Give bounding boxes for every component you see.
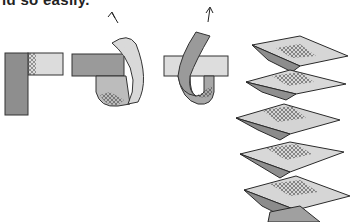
step-3-fold-second-strip-over — [164, 7, 228, 104]
folded-paper-spring — [236, 36, 350, 222]
step-2-fold-strip-over — [72, 12, 144, 106]
step-1-strips-at-right-angle — [5, 53, 63, 115]
folding-illustration — [0, 0, 354, 222]
